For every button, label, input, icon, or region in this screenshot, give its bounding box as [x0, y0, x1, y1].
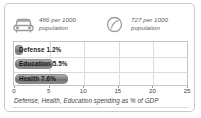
axis-tick-label: 0	[12, 88, 15, 94]
axis-tick-label: 5	[47, 88, 50, 94]
plot-area: Defense 1.2%Education 5.5%Health 7.6%	[13, 41, 188, 86]
stats-row: 486 per 1000 population 727 per 1000 pop…	[5, 8, 194, 40]
stat-cars-text: 486 per 1000 population	[39, 16, 76, 31]
axis-tick-label: 25	[184, 88, 191, 94]
bar-label-health: Health 7.6%	[19, 74, 56, 84]
stat-phones-text: 727 per 1000 population	[131, 16, 168, 31]
caption-divider	[13, 107, 188, 108]
bar-row: Education 5.5%	[14, 57, 187, 71]
stat-cars: 486 per 1000 population	[12, 8, 104, 40]
chart-caption: Defense, Health, Education spending as %…	[14, 97, 158, 104]
axis-tick-label: 20	[149, 88, 156, 94]
stat-phones: 727 per 1000 population	[104, 8, 168, 40]
car-icon	[12, 14, 35, 35]
axis-tick-label: 10	[80, 88, 87, 94]
x-axis: 0510152025	[13, 86, 188, 96]
bar-label-defense: Defense 1.2%	[19, 45, 61, 55]
infographic-panel: 486 per 1000 population 727 per 1000 pop…	[4, 3, 195, 112]
bar-label-education: Education 5.5%	[19, 59, 68, 69]
circle-slash-icon	[104, 14, 127, 35]
bar-row: Health 7.6%	[14, 72, 187, 86]
bar-row: Defense 1.2%	[14, 43, 187, 57]
bar-chart: Defense 1.2%Education 5.5%Health 7.6%	[13, 41, 188, 86]
axis-tick-label: 15	[114, 88, 121, 94]
